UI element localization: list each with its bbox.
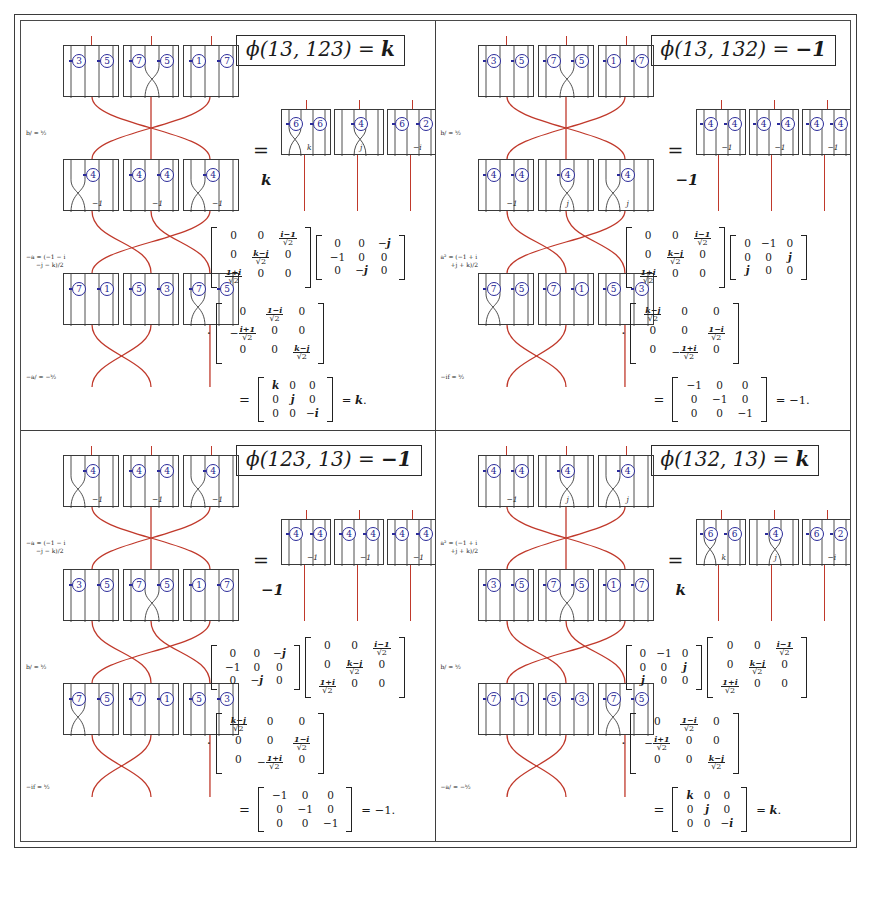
matrix-cell: −1+i√2 (252, 753, 288, 772)
matrix-cell: 0 (635, 248, 662, 267)
braid-box-label: −i (828, 553, 837, 562)
matrix-cell: 0 (247, 267, 274, 286)
multiplication-dot: · (622, 327, 626, 341)
matrix-cell: 0 (635, 647, 652, 661)
result-value: −1 (676, 171, 699, 189)
matrix-row-2: ·01−i√20−i+1√20000k−j√2 (207, 303, 324, 364)
final-result-tail: = −1. (776, 393, 810, 407)
braid-circle-tick (97, 60, 100, 61)
matrix-cell: 0 (703, 734, 730, 753)
braid-strands (64, 46, 120, 98)
matrix-cell: 0 (739, 237, 756, 251)
braid-generator-box: 44−1 (749, 109, 799, 155)
braid-generator-box: 17 (183, 569, 239, 621)
braid-box-label: j (627, 199, 629, 208)
braid-circle-tick (83, 174, 86, 175)
result-top-tick (721, 100, 722, 109)
result-bottom-tail (718, 565, 719, 621)
braid-circle-label: 4 (704, 117, 718, 131)
matrix-cell: 0 (703, 343, 730, 362)
matrix-cell: 0 (220, 248, 247, 267)
braid-circle-label: 7 (635, 578, 649, 592)
matrix-cell: 0 (225, 305, 261, 324)
matrix-row-1: 00i−1√20k−j√201+i√2000−1000jj00 (626, 227, 808, 288)
panel-annotation-2: b/ = ᵏ⁄₂ (441, 663, 461, 671)
annotation-line: b/ = ᵏ⁄₂ (26, 663, 46, 671)
final-result-tail: = k. (756, 803, 781, 817)
matrix-bracket-right (327, 377, 333, 422)
matrix-cell: 0 (267, 393, 284, 407)
matrix-cell: 0 (288, 324, 315, 343)
panel-title-bottom-left: ϕ(123, 13) = −1 (236, 445, 422, 476)
annotation-line: b/ = ᵏ⁄₂ (441, 129, 461, 137)
panel-title-formula: ϕ(132, 13) = (661, 447, 796, 471)
braid-circle-tick (286, 123, 289, 124)
matrix-cell: 1+i√2 (220, 267, 247, 286)
braid-circle-tick (416, 123, 419, 124)
panel-annotation-1: a² = (−1 + i+j + k)/2 (441, 539, 479, 554)
braid-top-tick (566, 36, 567, 45)
braid-box-label: −1 (507, 495, 518, 504)
braid-strands (64, 684, 120, 736)
braid-strands (64, 274, 120, 326)
matrix-cell: −1 (220, 661, 245, 675)
matrix-cell: 0 (267, 817, 292, 831)
matrix-cell: 1+i√2 (314, 677, 341, 696)
braid-circle-tick (511, 288, 514, 289)
braid-circle-tick (157, 60, 160, 61)
matrix-cell: 0 (225, 753, 252, 772)
annotation-line: b/ = ᵏ⁄₂ (441, 663, 461, 671)
annotation-line: −j − k)/2 (26, 261, 65, 269)
matrix-cell: 0 (703, 305, 730, 324)
braid-generator-box: 4j (538, 455, 594, 507)
braid-circle-tick (483, 60, 486, 61)
matrix-cell: −1 (756, 237, 781, 251)
braid-box-label: −1 (152, 495, 163, 504)
braid-circle-tick (69, 288, 72, 289)
braid-circle-label: 3 (487, 578, 501, 592)
matrix-cell: 0 (707, 407, 732, 421)
result-bottom-tail (357, 565, 358, 621)
braid-circle-tick (483, 470, 486, 471)
matrix-cell: −1 (318, 817, 343, 831)
matrix-cell: −j (373, 237, 396, 251)
final-equals-sign: = (239, 802, 250, 817)
braid-generator-box: 35 (63, 45, 119, 97)
braid-generator-box: 4j (598, 159, 654, 211)
matrix-cell: 0 (699, 789, 716, 803)
braid-generator-box: 71 (538, 273, 594, 325)
matrix-cell: −i (715, 817, 738, 831)
braid-circle-label: 1 (575, 282, 589, 296)
matrix-cell: −1 (681, 379, 706, 393)
matrix-grid: 0−1000jj00 (736, 235, 801, 280)
braid-circle-label: 7 (607, 692, 621, 706)
final-matrix: −1000−1000−1 (672, 377, 766, 422)
result-top-tick (359, 100, 360, 109)
matrix-cell: 1−i√2 (261, 305, 288, 324)
matrix-cell: 0 (639, 324, 666, 343)
panel-title-formula: ϕ(123, 13) = (246, 447, 381, 471)
result-bottom-tail (771, 155, 772, 211)
braid-circle-tick (129, 60, 132, 61)
annotation-line: −a = (−1 − i (26, 253, 65, 261)
braid-top-tick (211, 36, 212, 45)
matrix-cell: j (284, 393, 301, 407)
matrix-cell: i−1√2 (771, 639, 798, 658)
braid-circle-tick (157, 470, 160, 471)
braid-box-label: k (307, 143, 312, 152)
equals-sign: = (668, 549, 684, 571)
braid-box-label: j (567, 495, 569, 504)
result-bottom-tail (771, 565, 772, 621)
result-value: k (261, 171, 271, 189)
annotation-line: +j + k)/2 (441, 547, 479, 555)
matrix-bracket-right (741, 787, 747, 832)
braid-strands (539, 570, 595, 622)
panel-title-formula: ϕ(13, 132) = (661, 37, 796, 61)
braid-generator-box: 4−1 (183, 455, 239, 507)
braid-circle-tick (83, 470, 86, 471)
braid-top-tick (151, 36, 152, 45)
braid-circle-label: 4 (621, 464, 635, 478)
braid-circle-tick (571, 60, 574, 61)
matrix-cell: 0 (771, 677, 798, 696)
braid-generator-box: 62−i (387, 109, 436, 155)
